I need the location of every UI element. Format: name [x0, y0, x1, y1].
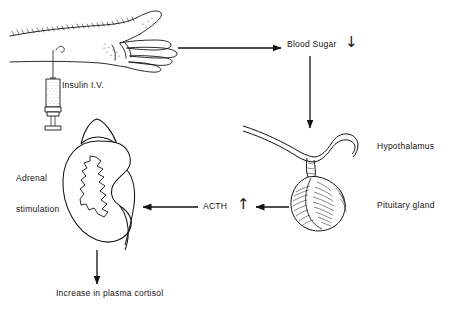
endocrine-feedback-diagram: Blood Sugar ↓ Hypothalamus Pituitary gla…	[0, 0, 451, 315]
arm-with-hand-illustration	[10, 11, 177, 72]
label-blood-sugar: Blood Sugar	[287, 39, 337, 49]
syringe-illustration	[45, 50, 61, 130]
diagram-artwork	[0, 0, 451, 315]
hypothalamus-pituitary-illustration	[243, 126, 358, 231]
blood-sugar-decrease-arrow-icon: ↓	[345, 35, 358, 50]
label-hypothalamus: Hypothalamus	[377, 141, 434, 151]
label-pituitary-gland: Pituitary gland	[377, 200, 435, 210]
label-adrenal-stimulation: Adrenal stimulation	[16, 152, 59, 235]
acth-increase-arrow-icon: ↑	[237, 197, 250, 212]
label-insulin-iv: Insulin I.V.	[62, 80, 104, 90]
label-increase-in-plasma-cortisol: Increase in plasma cortisol	[56, 288, 163, 298]
label-acth: ACTH	[203, 201, 227, 211]
kidney-with-adrenal-illustration	[63, 119, 135, 250]
label-adrenal-stimulation-line1: Adrenal	[16, 173, 59, 183]
label-adrenal-stimulation-line2: stimulation	[16, 204, 59, 214]
